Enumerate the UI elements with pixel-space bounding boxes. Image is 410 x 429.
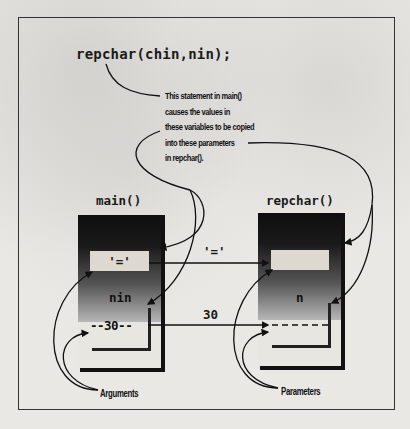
n-cell-edge bbox=[328, 303, 331, 348]
n-label: n bbox=[296, 290, 304, 305]
chin-value: '=' bbox=[108, 254, 131, 269]
main-stack-edge bbox=[80, 368, 165, 372]
nin-label: nin bbox=[109, 290, 132, 305]
char-transfer-label: '=' bbox=[203, 244, 226, 259]
nin-cell-edge bbox=[92, 348, 151, 351]
note-line: causes the values in bbox=[165, 104, 254, 120]
repchar-stack-edge bbox=[260, 366, 345, 370]
main-stack-edge bbox=[161, 215, 165, 372]
arguments-caption: Arguments bbox=[100, 388, 138, 399]
n-cell-edge bbox=[272, 345, 331, 348]
explanation-note: This statement in main() causes the valu… bbox=[165, 88, 254, 166]
function-call-statement: repchar(chin,nin); bbox=[76, 46, 231, 62]
note-line: these variables to be copied bbox=[165, 119, 254, 135]
nin-value: --30-- bbox=[90, 318, 132, 333]
note-line: This statement in main() bbox=[165, 88, 254, 104]
int-transfer-label: 30 bbox=[203, 307, 218, 322]
note-line: in repchar(). bbox=[165, 150, 254, 166]
parameters-caption: Parameters bbox=[281, 386, 320, 397]
main-function-title: main() bbox=[96, 193, 141, 208]
repchar-function-title: repchar() bbox=[266, 193, 334, 208]
repchar-stack-edge bbox=[341, 213, 345, 370]
note-line: into these parameters bbox=[165, 135, 254, 151]
chin-cell: '=' bbox=[90, 251, 149, 271]
ch-cell bbox=[271, 250, 329, 270]
nin-cell-edge bbox=[148, 308, 151, 350]
